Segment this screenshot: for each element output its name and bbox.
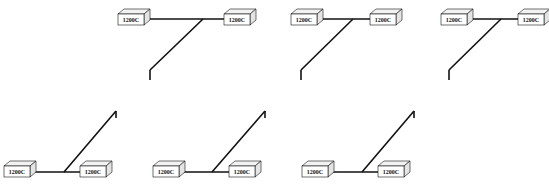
panel-bottom-2: 1200C1200C xyxy=(153,111,265,177)
panel-bottom-3: 1200C1200C xyxy=(302,111,414,177)
device-box-right: 1200C xyxy=(224,9,256,25)
device-label: 1200C xyxy=(383,169,399,175)
panel-top-2: 1200C1200C xyxy=(291,9,402,80)
device-box-right: 1200C xyxy=(370,9,402,25)
device-label: 1200C xyxy=(9,169,25,175)
device-label: 1200C xyxy=(375,17,391,23)
device-box-left: 1200C xyxy=(302,161,334,177)
device-box-left: 1200C xyxy=(118,9,150,25)
diagonal-line xyxy=(449,19,501,70)
device-box-left: 1200C xyxy=(4,161,36,177)
diagonal-line xyxy=(150,19,203,70)
device-box-left: 1200C xyxy=(441,9,473,25)
panel-top-1: 1200C1200C xyxy=(118,9,256,80)
device-label: 1200C xyxy=(296,17,312,23)
device-label: 1200C xyxy=(307,169,323,175)
panel-top-3: 1200C1200C xyxy=(441,9,549,80)
device-box-right: 1200C xyxy=(80,161,112,177)
device-box-right: 1200C xyxy=(518,9,549,25)
device-box-left: 1200C xyxy=(291,9,323,25)
device-box-right: 1200C xyxy=(229,161,261,177)
diagonal-line xyxy=(301,19,353,70)
device-label: 1200C xyxy=(158,169,174,175)
device-label: 1200C xyxy=(234,169,250,175)
panel-bottom-1: 1200C1200C xyxy=(4,111,116,177)
diagram-canvas: 1200C1200C1200C1200C1200C1200C1200C1200C… xyxy=(0,0,549,188)
device-box-left: 1200C xyxy=(153,161,185,177)
device-box-right: 1200C xyxy=(378,161,410,177)
device-label: 1200C xyxy=(123,17,139,23)
device-label: 1200C xyxy=(229,17,245,23)
device-label: 1200C xyxy=(446,17,462,23)
device-label: 1200C xyxy=(523,17,539,23)
device-label: 1200C xyxy=(85,169,101,175)
